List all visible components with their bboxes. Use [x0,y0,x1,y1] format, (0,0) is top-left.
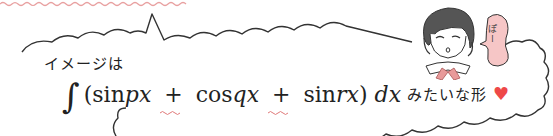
term2-func: cos [196,82,233,107]
girl-character-icon [412,4,484,80]
heart-icon: ♥ [493,83,510,104]
plus-2-text: + [272,82,290,107]
emphasis-squiggle-icon [160,110,180,115]
term3-func: sin [304,82,337,107]
small-bubble-text: ぽー [486,24,499,44]
differential: dx [375,82,402,107]
integral-symbol: ∫ [62,76,80,116]
term2-arg: qx [233,82,260,107]
plus-1-text: + [164,82,182,107]
close-paren: ) [359,82,368,107]
suffix-text: みたいな形 [407,86,487,104]
suffix-label: みたいな形♥ [407,83,510,104]
integral-formula: ∫(sinpx + cosqx + sinrx) dx [62,70,401,110]
plus-sign-2: + [266,82,296,107]
emphasis-squiggle-icon [268,110,288,115]
plus-sign-1: + [158,82,188,107]
term1-arg: px [125,82,152,107]
term3-arg: rx [336,82,359,107]
term1-func: sin [92,82,125,107]
